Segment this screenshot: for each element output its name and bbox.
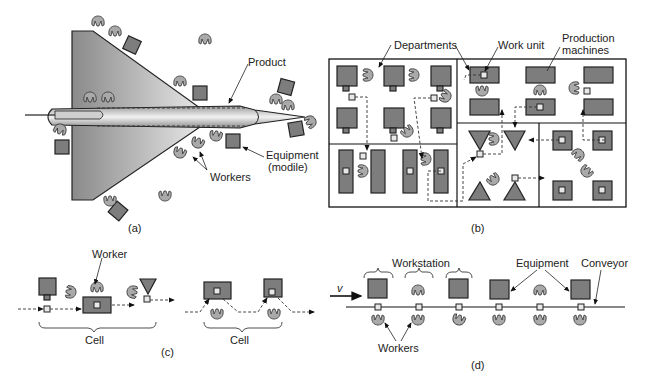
brace-cell-1 (39, 322, 156, 332)
worker-icon (92, 16, 104, 26)
caption-b: (b) (471, 222, 484, 234)
manufacturing-layout-diagram: Product Equipment (modile) Workers (a) (0, 0, 646, 389)
worker-icon (172, 146, 187, 160)
equipment-icon (277, 78, 294, 95)
panel-b-process-layout: Departments Work unit Production machine… (329, 32, 626, 234)
label-v: v (337, 282, 344, 294)
label-equipment: Equipment (266, 149, 319, 161)
label-equipment: Equipment (516, 257, 569, 269)
label-equipment-sub: (modile) (268, 161, 308, 173)
label-cell-2: Cell (230, 334, 249, 346)
work-unit-icon (349, 94, 355, 100)
worker-icon (303, 114, 318, 130)
worker-icon (174, 76, 186, 86)
worker-icon (270, 94, 282, 104)
label-workstation: Workstation (392, 257, 450, 269)
caption-a: (a) (128, 222, 141, 234)
equipment-icon (226, 134, 240, 148)
worker-icon (190, 136, 205, 150)
label-machines: machines (562, 44, 610, 56)
label-cell-1: Cell (85, 334, 104, 346)
label-work-unit: Work unit (498, 39, 544, 51)
panel-d-product-layout: v Workstation Equipment Conveyor Workers… (330, 257, 628, 371)
label-workers: Workers (378, 342, 419, 354)
equipment-icon (193, 86, 207, 100)
equipment-icon (55, 140, 69, 154)
worker-icon (199, 34, 211, 44)
label-departments: Departments (394, 39, 457, 51)
equipment-icon (123, 36, 142, 55)
worker-icon (209, 130, 223, 142)
worker-icon (84, 92, 96, 102)
product-canopy (55, 111, 103, 119)
worker-icon (104, 196, 116, 206)
worker-icon (102, 92, 114, 102)
panel-c-cellular-layout: Worker Cell Cell (c) (18, 248, 314, 358)
label-workers: Workers (210, 171, 251, 183)
caption-d: (d) (471, 359, 484, 371)
worker-icon (109, 26, 121, 36)
label-worker: Worker (92, 248, 128, 260)
worker-icon (159, 191, 171, 201)
brace-cell-2 (204, 322, 282, 332)
worker-icon (282, 100, 294, 110)
label-production: Production (562, 32, 615, 44)
equipment-icon (288, 121, 304, 137)
label-product: Product (248, 56, 286, 68)
caption-c: (c) (161, 346, 174, 358)
label-conveyor: Conveyor (581, 257, 628, 269)
panel-a-fixed-position-layout: Product Equipment (modile) Workers (a) (25, 16, 319, 234)
